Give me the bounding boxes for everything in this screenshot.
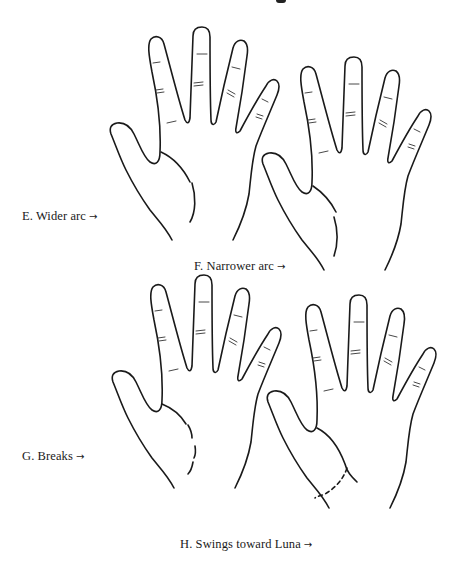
arrow-right-icon: → [89, 211, 97, 222]
palmistry-figure: E. Wider arc→ F. Narrower arc→ G. Breaks… [0, 0, 469, 568]
label-g-text: G. Breaks [22, 449, 73, 463]
hands-drawing [0, 0, 469, 568]
label-h: H. Swings toward Luna→ [180, 537, 312, 552]
life-line-f [313, 186, 336, 212]
life-line-g [162, 404, 186, 424]
hand-h [267, 295, 436, 508]
hand-f [262, 57, 431, 270]
arrow-right-icon: → [304, 539, 312, 550]
label-f-text: F. Narrower arc [194, 259, 274, 273]
life-line-h [317, 428, 357, 482]
arrow-right-icon: → [277, 261, 285, 272]
hand-e [110, 27, 279, 240]
label-e-text: E. Wider arc [22, 209, 86, 223]
label-h-text: H. Swings toward Luna [180, 537, 301, 551]
arrow-right-icon: → [76, 451, 84, 462]
label-f: F. Narrower arc→ [194, 259, 285, 274]
life-line-e [161, 152, 190, 182]
label-e: E. Wider arc→ [22, 209, 97, 224]
hand-g [112, 275, 281, 488]
label-g: G. Breaks→ [22, 449, 84, 464]
